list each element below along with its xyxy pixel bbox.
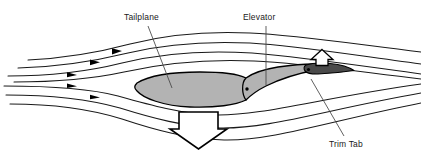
flow-arrowhead-4 — [67, 83, 77, 88]
flow-arrowhead-5 — [90, 95, 100, 100]
elevator-down-force-arrow — [170, 112, 227, 149]
diagram-canvas — [0, 0, 421, 159]
trim-tab-leader-line — [311, 79, 344, 136]
trim-tab-hinge-point — [307, 68, 310, 71]
tailplane-body — [135, 72, 246, 107]
flow-arrowhead-1 — [112, 48, 122, 54]
trim-tab-surface — [304, 63, 354, 74]
elevator-label: Elevator — [243, 12, 275, 22]
trim-tab-label: Trim Tab — [329, 139, 363, 149]
elevator-hinge-point — [245, 87, 248, 90]
flow-arrowhead-3 — [67, 72, 77, 77]
aerodynamics-diagram: Tailplane Elevator Trim Tab — [0, 0, 421, 159]
tailplane-label: Tailplane — [124, 12, 159, 22]
